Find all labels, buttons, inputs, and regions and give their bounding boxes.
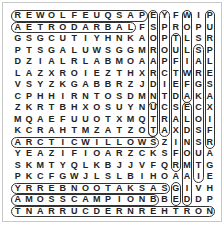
letter-cell[interactable]: R	[23, 137, 34, 149]
letter-cell[interactable]: A	[57, 45, 68, 57]
letter-cell[interactable]: I	[181, 183, 192, 195]
letter-cell[interactable]: E	[23, 148, 34, 160]
letter-cell[interactable]: R	[148, 45, 159, 57]
letter-cell[interactable]: P	[159, 22, 170, 34]
letter-cell[interactable]: R	[35, 183, 46, 195]
letter-cell[interactable]: O	[125, 137, 136, 149]
letter-cell[interactable]: R	[46, 206, 57, 218]
letter-cell[interactable]: O	[91, 183, 102, 195]
letter-cell[interactable]: R	[35, 125, 46, 137]
letter-cell[interactable]: E	[181, 102, 192, 114]
letter-cell[interactable]: T	[148, 125, 159, 137]
letter-cell[interactable]: U	[68, 206, 79, 218]
letter-cell[interactable]: H	[148, 171, 159, 183]
letter-cell[interactable]: T	[102, 183, 113, 195]
letter-cell[interactable]: L	[80, 160, 91, 172]
letter-cell[interactable]: M	[136, 91, 147, 103]
letter-cell[interactable]: F	[170, 148, 181, 160]
letter-cell[interactable]: R	[91, 22, 102, 34]
letter-cell[interactable]: W	[181, 10, 192, 22]
letter-cell[interactable]: I	[193, 171, 204, 183]
letter-cell[interactable]: G	[204, 160, 215, 172]
letter-cell[interactable]: U	[170, 45, 181, 57]
letter-cell[interactable]: S	[35, 45, 46, 57]
letter-cell[interactable]: D	[68, 22, 79, 34]
letter-cell[interactable]: O	[159, 171, 170, 183]
letter-cell[interactable]: E	[204, 171, 215, 183]
letter-cell[interactable]: A	[114, 22, 125, 34]
letter-cell[interactable]: K	[23, 160, 34, 172]
letter-cell[interactable]: F	[68, 148, 79, 160]
letter-cell[interactable]: B	[125, 171, 136, 183]
letter-cell[interactable]: T	[170, 206, 181, 218]
letter-cell[interactable]: I	[114, 194, 125, 206]
letter-cell[interactable]: N	[23, 206, 34, 218]
letter-cell[interactable]: D	[12, 56, 23, 68]
letter-cell[interactable]: H	[57, 125, 68, 137]
letter-cell[interactable]: L	[181, 114, 192, 126]
letter-cell[interactable]: O	[125, 194, 136, 206]
letter-cell[interactable]: Z	[91, 125, 102, 137]
letter-cell[interactable]: R	[57, 68, 68, 80]
letter-cell[interactable]: D	[170, 91, 181, 103]
letter-cell[interactable]: O	[136, 125, 147, 137]
letter-cell[interactable]: H	[125, 68, 136, 80]
letter-cell[interactable]: W	[68, 171, 79, 183]
letter-cell[interactable]: O	[125, 56, 136, 68]
letter-cell[interactable]: M	[35, 160, 46, 172]
letter-cell[interactable]: R	[23, 183, 34, 195]
letter-cell[interactable]: T	[91, 91, 102, 103]
letter-cell[interactable]: N	[136, 102, 147, 114]
letter-cell[interactable]: R	[46, 22, 57, 34]
letter-cell[interactable]: C	[136, 148, 147, 160]
letter-cell[interactable]: C	[193, 102, 204, 114]
letter-cell[interactable]: T	[68, 125, 79, 137]
letter-cell[interactable]: C	[159, 68, 170, 80]
letter-cell[interactable]: I	[80, 33, 91, 45]
letter-cell[interactable]: O	[181, 22, 192, 34]
letter-cell[interactable]: A	[102, 148, 113, 160]
letter-cell[interactable]: M	[23, 194, 34, 206]
letter-cell[interactable]: F	[204, 125, 215, 137]
letter-cell[interactable]: R	[68, 91, 79, 103]
letter-cell[interactable]: O	[102, 91, 113, 103]
letter-cell[interactable]: P	[12, 45, 23, 57]
letter-cell[interactable]: M	[80, 125, 91, 137]
letter-cell[interactable]: M	[181, 160, 192, 172]
letter-cell[interactable]: R	[68, 56, 79, 68]
letter-cell[interactable]: B	[102, 79, 113, 91]
letter-cell[interactable]: F	[57, 114, 68, 126]
letter-cell[interactable]: T	[193, 160, 204, 172]
letter-cell[interactable]: L	[80, 56, 91, 68]
letter-cell[interactable]: D	[148, 79, 159, 91]
letter-cell[interactable]: P	[12, 171, 23, 183]
letter-cell[interactable]: Q	[102, 10, 113, 22]
letter-cell[interactable]: A	[12, 22, 23, 34]
letter-cell[interactable]: Q	[136, 114, 147, 126]
letter-cell[interactable]: C	[35, 171, 46, 183]
letter-cell[interactable]: L	[91, 171, 102, 183]
letter-cell[interactable]: F	[136, 22, 147, 34]
letter-cell[interactable]: E	[170, 79, 181, 91]
letter-cell[interactable]: S	[114, 91, 125, 103]
letter-cell[interactable]: L	[102, 137, 113, 149]
letter-cell[interactable]: F	[68, 10, 79, 22]
letter-cell[interactable]: L	[204, 56, 215, 68]
letter-cell[interactable]: S	[136, 183, 147, 195]
letter-cell[interactable]: U	[68, 114, 79, 126]
letter-cell[interactable]: L	[125, 22, 136, 34]
letter-cell[interactable]: S	[193, 33, 204, 45]
letter-cell[interactable]: I	[170, 137, 181, 149]
letter-cell[interactable]: A	[23, 68, 34, 80]
letter-cell[interactable]: G	[193, 79, 204, 91]
letter-cell[interactable]: A	[91, 56, 102, 68]
letter-cell[interactable]: X	[136, 68, 147, 80]
letter-cell[interactable]: A	[102, 125, 113, 137]
letter-cell[interactable]: B	[148, 194, 159, 206]
letter-cell[interactable]: Z	[12, 102, 23, 114]
letter-cell[interactable]: T	[170, 68, 181, 80]
letter-cell[interactable]: Z	[46, 79, 57, 91]
letter-cell[interactable]: L	[12, 68, 23, 80]
letter-cell[interactable]: R	[193, 68, 204, 80]
letter-cell[interactable]: Z	[125, 125, 136, 137]
